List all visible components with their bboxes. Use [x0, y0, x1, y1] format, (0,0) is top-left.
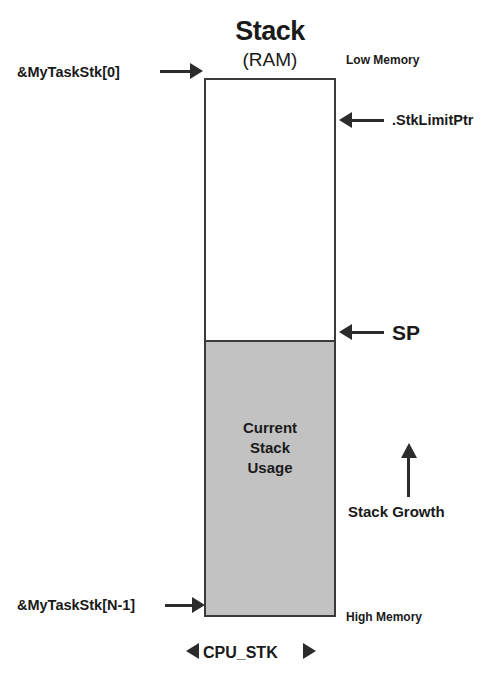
- stack-width-label: CPU_STK: [203, 645, 278, 661]
- stack-pointer-label: SP: [392, 322, 420, 343]
- stack-box: Current Stack Usage: [204, 78, 336, 617]
- stack-diagram: Stack (RAM) Low Memory High Memory Curre…: [0, 0, 502, 684]
- stack-pointer-leader-line: [352, 331, 384, 334]
- stack-start-label: &MyTaskStk[0]: [17, 65, 120, 80]
- stack-start-leader-line: [160, 70, 192, 73]
- stack-limit-label: .StkLimitPtr: [392, 113, 473, 128]
- stack-limit-leader-line: [352, 119, 384, 122]
- page-subtitle: (RAM): [204, 50, 336, 69]
- low-memory-label: Low Memory: [346, 54, 419, 66]
- used-label-line-3: Usage: [206, 458, 334, 478]
- used-stack-region: Current Stack Usage: [206, 340, 334, 615]
- stack-growth-label: Stack Growth: [348, 504, 445, 519]
- stack-end-label: &MyTaskStk[N-1]: [17, 598, 135, 613]
- arrow-right-icon: [303, 643, 316, 659]
- arrow-left-icon: [339, 324, 352, 340]
- arrow-left-icon: [186, 643, 199, 659]
- used-stack-label: Current Stack Usage: [206, 418, 334, 477]
- stack-end-leader-line: [165, 604, 194, 607]
- stack-growth-leader-line: [407, 455, 410, 497]
- used-label-line-2: Stack: [206, 438, 334, 458]
- arrow-right-icon: [192, 597, 205, 613]
- arrow-right-icon: [190, 63, 203, 79]
- free-stack-region: [206, 80, 334, 340]
- page-title: Stack: [204, 18, 336, 45]
- arrow-left-icon: [339, 112, 352, 128]
- arrow-up-icon: [401, 443, 417, 458]
- high-memory-label: High Memory: [346, 611, 422, 623]
- used-label-line-1: Current: [206, 418, 334, 438]
